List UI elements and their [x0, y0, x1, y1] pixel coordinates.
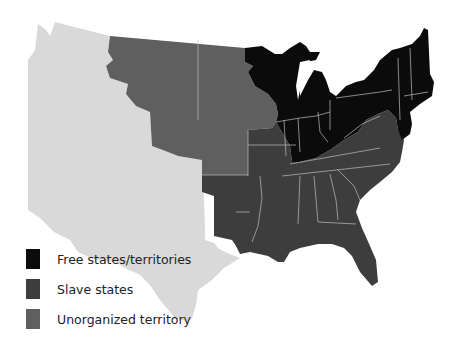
legend: Free states/territories Slave states Uno… [26, 244, 191, 334]
slave-swatch [26, 279, 40, 299]
legend-label: Unorganized territory [57, 312, 191, 327]
legend-item-slave: Slave states [26, 274, 191, 304]
legend-label: Slave states [57, 282, 133, 297]
legend-label: Free states/territories [57, 252, 191, 267]
free-swatch [26, 249, 40, 269]
unorganized-swatch [26, 309, 40, 329]
legend-item-free: Free states/territories [26, 244, 191, 274]
legend-item-unorganized: Unorganized territory [26, 304, 191, 334]
